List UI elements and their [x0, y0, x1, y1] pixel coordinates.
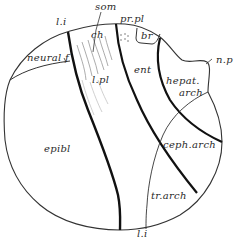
label-ch: ch — [91, 30, 104, 40]
thin-line-arches — [146, 92, 208, 229]
label-tr-arch: tr.arch — [151, 191, 187, 201]
label-ceph-arch: ceph.arch — [163, 140, 216, 150]
dots-near-prpl — [121, 33, 128, 42]
label-som: som — [95, 2, 117, 12]
label-l-i-bottom: l.i — [137, 229, 147, 239]
label-ent: ent — [134, 65, 151, 75]
bold-line-lpl — [68, 32, 120, 230]
label-hepat: hepat. — [166, 76, 200, 86]
label-n-p: n.p — [216, 55, 233, 65]
label-hepat-arch: arch — [179, 88, 203, 98]
bold-line-ent — [116, 24, 197, 193]
label-neural-f: neural f — [27, 53, 69, 63]
label-l-i-top: l.i — [56, 17, 66, 27]
label-l-pl: l.pl — [92, 75, 109, 85]
label-epibl: epibl — [44, 144, 71, 154]
neural-fold-line — [10, 61, 70, 80]
embryo-diagram: l.i som pr.pl ch br neural f n.p l.pl en… — [0, 0, 234, 240]
label-br: br — [141, 31, 153, 41]
diagram-lines — [0, 0, 234, 240]
label-pr-pl: pr.pl — [120, 14, 144, 24]
